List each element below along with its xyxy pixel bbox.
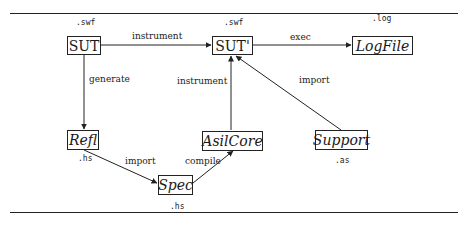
node-support-label: Support — [313, 132, 370, 148]
node-asilcore: AsilCore — [202, 131, 263, 151]
node-logfile-label: LogFile — [356, 38, 410, 54]
node-sut: SUT — [67, 36, 101, 55]
node-refl: Refl — [67, 130, 99, 150]
ext-sut: .swf — [76, 18, 95, 27]
node-refl-label: Refl — [69, 132, 97, 148]
node-spec: Spec — [158, 175, 193, 195]
node-support: Support — [315, 130, 368, 150]
label-spec-to-asilcore: compile — [185, 156, 221, 166]
node-sut-prime: SUT' — [212, 36, 253, 55]
ext-refl: .hs — [78, 154, 92, 163]
label-support-to-sutprime: import — [299, 75, 330, 85]
edges-layer — [0, 0, 469, 225]
node-sut-prime-label: SUT' — [215, 38, 250, 54]
node-asilcore-label: AsilCore — [202, 133, 262, 149]
label-sutprime-to-logfile: exec — [290, 32, 311, 42]
label-sut-to-sutprime: instrument — [132, 31, 182, 41]
node-spec-label: Spec — [158, 177, 193, 193]
node-logfile: LogFile — [352, 36, 413, 55]
label-refl-to-spec: import — [125, 156, 156, 166]
label-sut-to-refl: generate — [89, 74, 130, 84]
edge-support-to-sutprime — [236, 56, 341, 130]
ext-support: .as — [335, 156, 349, 165]
ext-logfile: .log — [372, 14, 391, 23]
ext-sut-prime: .swf — [224, 18, 243, 27]
edge-refl-to-spec — [84, 150, 157, 183]
label-asilcore-to-sutprime: instrument — [177, 76, 227, 86]
ext-spec: .hs — [170, 202, 184, 211]
node-sut-label: SUT — [69, 38, 100, 54]
